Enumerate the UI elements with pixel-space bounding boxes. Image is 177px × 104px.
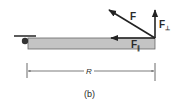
force-label: F bbox=[130, 11, 136, 22]
force-diagram: F F⊥ F∥ R (b) bbox=[0, 0, 177, 104]
lever-length-dimension: R bbox=[27, 63, 155, 81]
lever-length-label: R bbox=[86, 67, 92, 76]
figure-caption: (b) bbox=[84, 89, 95, 99]
perpendicular-force-label: F⊥ bbox=[159, 19, 170, 31]
